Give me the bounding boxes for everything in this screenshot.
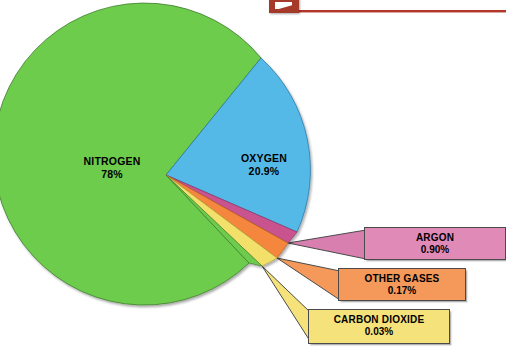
slice-label-oxygen-name: OXYGEN [212,152,316,165]
callout-other-gases: OTHER GASES 0.17% [338,268,466,301]
callout-carbon-dioxide: CARBON DIOXIDE 0.03% [308,309,450,344]
slice-label-oxygen-value: 20.9% [212,165,316,178]
slice-label-nitrogen-name: NITROGEN [54,155,170,168]
argon-leader [288,230,366,259]
slice-label-nitrogen: NITROGEN 78% [54,155,170,181]
callout-other-gases-value: 0.17% [339,285,465,297]
callout-argon: ARGON 0.90% [364,227,506,260]
slice-label-nitrogen-value: 78% [54,168,170,181]
slice-label-oxygen: OXYGEN 20.9% [212,152,316,178]
pie-chart-figure: NITROGEN 78% OXYGEN 20.9% ARGON 0.90% OT… [0,0,506,362]
callout-argon-value: 0.90% [365,244,505,256]
callout-carbon-dioxide-name: CARBON DIOXIDE [309,314,449,326]
callout-other-gases-name: OTHER GASES [339,273,465,285]
carbon-dioxide-leader [262,266,310,341]
callout-argon-name: ARGON [365,232,505,244]
callout-carbon-dioxide-value: 0.03% [309,326,449,338]
